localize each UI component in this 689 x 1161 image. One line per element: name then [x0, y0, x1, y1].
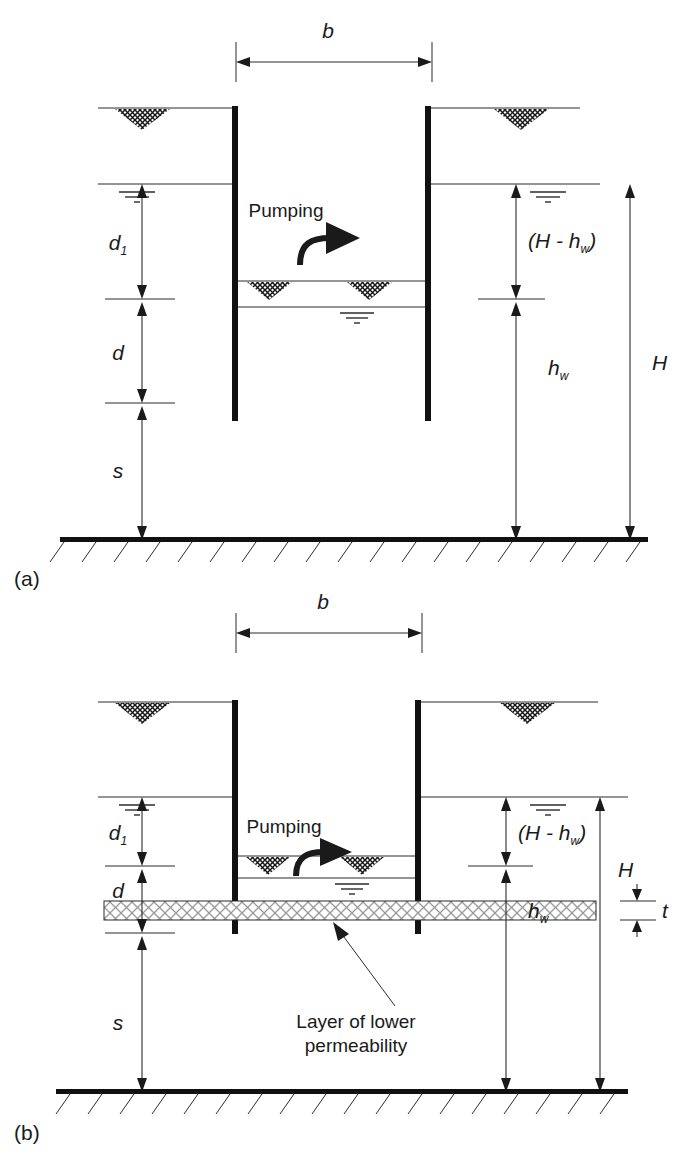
label-s-b: s [113, 1011, 124, 1034]
label-layer-line1: Layer of lower [296, 1011, 416, 1032]
sheet-pile-wall-right-b [415, 700, 421, 934]
paper-background [0, 0, 689, 1161]
low-permeability-layer [104, 901, 596, 920]
label-pumping-b: Pumping [247, 816, 322, 837]
label-b-a: b [322, 19, 334, 42]
figure-root: b [0, 0, 689, 1161]
label-H-b: H [618, 858, 634, 881]
panel-label-a: (a) [14, 567, 40, 590]
label-d-a: d [112, 341, 125, 364]
cross-hatch-icon [104, 901, 596, 920]
label-H-a: H [652, 351, 668, 374]
sheet-pile-wall-left-b [232, 700, 238, 934]
panel-label-b: (b) [14, 1121, 40, 1144]
sheet-pile-wall-right-a [425, 106, 431, 421]
label-b-b: b [317, 590, 329, 613]
label-d-b: d [112, 879, 125, 902]
label-s-a: s [113, 459, 124, 482]
dewatering-figure-svg: b [0, 0, 689, 1161]
label-layer-line2: permeability [305, 1035, 408, 1056]
label-pumping-a: Pumping [249, 200, 324, 221]
sheet-pile-wall-left-a [232, 106, 238, 421]
